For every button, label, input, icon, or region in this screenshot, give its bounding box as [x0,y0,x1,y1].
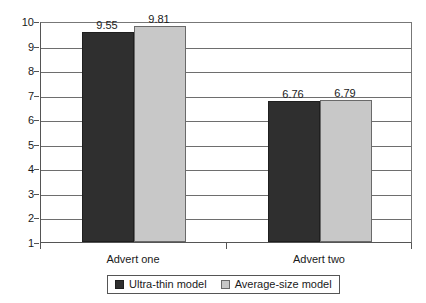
y-axis-tick-mark [34,47,39,48]
y-axis-tick-label: 6 [8,115,34,126]
y-axis-tick-label: 1 [8,238,34,249]
y-axis-tick-mark [34,194,39,195]
bar-value-labels: 9.559.816.766.79 [40,0,412,243]
y-axis-tick-mark [34,145,39,146]
y-axis-tick-mark [34,218,39,219]
bar-value-label: 6.76 [267,89,319,100]
bar-chart: 12345678910 9.559.816.766.79 Advert oneA… [0,0,426,303]
bar-value-label: 9.55 [81,20,133,31]
y-axis-tick-mark [34,169,39,170]
y-axis-tick-label: 2 [8,213,34,224]
x-axis-tick-mark [40,243,41,249]
y-axis-tick-mark [34,22,39,23]
x-axis: Advert oneAdvert two [40,243,412,271]
chart-legend: Ultra-thin modelAverage-size model [107,275,340,294]
y-axis-tick-label: 9 [8,41,34,52]
legend-label: Average-size model [235,279,332,290]
y-axis-tick-label: 8 [8,66,34,77]
legend-swatch-icon [115,280,124,289]
bar-value-label: 9.81 [133,14,185,25]
legend-item: Average-size model [221,279,332,290]
y-axis-tick-mark [34,71,39,72]
y-axis-tick-label: 3 [8,188,34,199]
y-axis-tick-mark [34,96,39,97]
bar-value-label: 6.79 [319,88,371,99]
legend-label: Ultra-thin model [129,279,207,290]
y-axis-tick-label: 7 [8,90,34,101]
x-axis-category-label: Advert one [73,253,193,265]
x-axis-tick-mark [226,243,227,249]
y-axis-tick-mark [34,120,39,121]
y-axis: 12345678910 [6,22,34,243]
legend-swatch-icon [221,280,230,289]
y-axis-tick-label: 10 [8,17,34,28]
y-axis-tick-label: 4 [8,164,34,175]
x-axis-category-label: Advert two [259,253,379,265]
y-axis-tick-mark [34,243,39,244]
x-axis-tick-mark [411,243,412,249]
y-axis-tick-label: 5 [8,139,34,150]
legend-item: Ultra-thin model [115,279,207,290]
